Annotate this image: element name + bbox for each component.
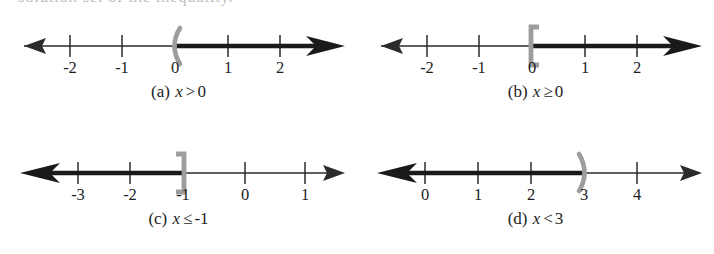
- inequality-number-line-figure: solution set of the inequality. -2 -1 0 …: [0, 0, 714, 254]
- panel-d: 0 1 2 3 4 (d) x<3: [357, 127, 714, 254]
- tick-label-b-2: 0: [528, 58, 536, 78]
- number-line-a: [0, 0, 357, 92]
- caption-c: (c) x≤-1: [0, 209, 357, 229]
- caption-d-relation: <: [541, 209, 555, 228]
- caption-a-value: 0: [197, 82, 206, 101]
- tick-label-c-3: 0: [241, 185, 249, 205]
- panel-b: -2 -1 0 1 2 (b) x≥0: [357, 0, 714, 127]
- caption-a-variable: x: [174, 82, 184, 101]
- tick-label-d-0: 0: [421, 185, 429, 205]
- caption-a: (a) x>0: [0, 82, 357, 102]
- panel-a: -2 -1 0 1 2 (a) x>0: [0, 0, 357, 127]
- tick-label-c-2: -1: [176, 185, 190, 205]
- caption-d-prefix: (d): [508, 209, 528, 228]
- caption-b: (b) x≥0: [357, 82, 714, 102]
- tick-label-d-2: 2: [527, 185, 535, 205]
- caption-c-variable: x: [172, 209, 182, 228]
- tick-label-c-0: -3: [71, 185, 85, 205]
- tick-label-a-1: -1: [115, 58, 129, 78]
- tick-label-c-1: -2: [123, 185, 137, 205]
- caption-c-value: -1: [194, 209, 208, 228]
- caption-d: (d) x<3: [357, 209, 714, 229]
- tick-label-b-3: 1: [581, 58, 589, 78]
- caption-b-variable: x: [532, 82, 542, 101]
- tick-label-d-3: 3: [580, 185, 588, 205]
- tick-label-a-3: 1: [224, 58, 232, 78]
- number-line-d: [357, 127, 714, 219]
- tick-label-b-1: -1: [472, 58, 486, 78]
- tick-label-a-2: 0: [171, 58, 179, 78]
- caption-a-relation: >: [184, 82, 198, 101]
- number-line-b: [357, 0, 714, 92]
- tick-label-b-0: -2: [420, 58, 434, 78]
- tick-label-c-4: 1: [301, 185, 309, 205]
- number-line-c: [0, 127, 357, 219]
- tick-label-a-4: 2: [276, 58, 284, 78]
- tick-label-a-0: -2: [63, 58, 77, 78]
- caption-c-relation: ≤: [181, 209, 194, 228]
- tick-label-d-4: 4: [633, 185, 641, 205]
- caption-c-prefix: (c): [148, 209, 167, 228]
- caption-a-prefix: (a): [151, 82, 170, 101]
- tick-label-d-1: 1: [474, 185, 482, 205]
- panel-c: -3 -2 -1 0 1 (c) x≤-1: [0, 127, 357, 254]
- caption-d-variable: x: [532, 209, 542, 228]
- caption-b-prefix: (b): [508, 82, 528, 101]
- caption-b-relation: ≥: [541, 82, 554, 101]
- tick-label-b-4: 2: [633, 58, 641, 78]
- caption-d-value: 3: [555, 209, 564, 228]
- caption-b-value: 0: [555, 82, 564, 101]
